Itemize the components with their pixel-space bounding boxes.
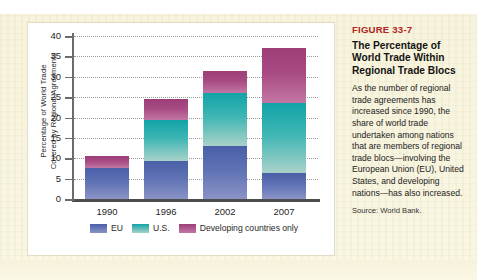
legend-swatch-dev	[179, 224, 196, 233]
y-axis-tick-label: 15	[39, 132, 61, 143]
y-axis-tick-label: 30	[39, 71, 61, 82]
legend-label-dev: Developing countries only	[200, 223, 298, 233]
bar-segment-us-2002[interactable]	[203, 93, 247, 146]
y-axis-tick-label: 40	[39, 30, 61, 41]
plot-area: 0510152025303540 1990199620022007	[72, 36, 318, 199]
y-axis-tick-mark: 35	[65, 56, 74, 58]
legend-item-eu[interactable]: EU	[90, 223, 123, 233]
x-axis-label-2007: 2007	[254, 206, 314, 217]
bar-segment-eu-1996[interactable]	[144, 161, 188, 199]
figure-number: FIGURE 33-7	[352, 24, 464, 35]
x-axis-label-1996: 1996	[136, 206, 196, 217]
chart-legend: EUU.S.Developing countries only	[90, 223, 298, 233]
bar-1996[interactable]	[144, 99, 188, 199]
y-axis-tick-mark: 5	[65, 179, 74, 181]
legend-swatch-us	[132, 224, 149, 233]
y-axis-tick-label: 35	[39, 50, 61, 61]
bar-2002[interactable]	[203, 71, 247, 199]
x-axis-label-2002: 2002	[195, 206, 255, 217]
y-axis-tick-mark: 20	[65, 118, 74, 120]
page-bottom-band	[0, 260, 477, 280]
figure-title: The Percentage of World Trade Within Reg…	[352, 40, 464, 77]
bar-segment-dev-1990[interactable]	[85, 156, 129, 168]
y-axis-tick-mark: 15	[65, 138, 74, 140]
gridline	[74, 36, 318, 37]
y-axis-tick-label: 10	[39, 152, 61, 163]
bar-segment-us-1996[interactable]	[144, 120, 188, 161]
y-axis-tick-mark: 0	[65, 199, 74, 201]
y-axis-tick-label: 20	[39, 112, 61, 123]
y-axis-tick-label: 0	[39, 193, 61, 204]
x-axis-label-1990: 1990	[77, 206, 137, 217]
bar-segment-us-2007[interactable]	[262, 103, 306, 172]
legend-item-dev[interactable]: Developing countries only	[179, 223, 298, 233]
legend-label-eu: EU	[111, 223, 123, 233]
figure-source: Source: World Bank.	[352, 206, 464, 215]
legend-label-us: U.S.	[153, 223, 170, 233]
x-axis-line	[72, 199, 320, 202]
y-axis-tick-mark: 30	[65, 77, 74, 79]
bar-segment-dev-2007[interactable]	[262, 48, 306, 103]
y-axis-tick-mark: 40	[65, 36, 74, 38]
bar-segment-dev-1996[interactable]	[144, 99, 188, 120]
figure-caption-panel: FIGURE 33-7 The Percentage of World Trad…	[352, 24, 464, 215]
bar-2007[interactable]	[262, 48, 306, 199]
legend-item-us[interactable]: U.S.	[132, 223, 170, 233]
chart-panel: Percentage of World Trade Covered by Reg…	[28, 23, 334, 255]
y-axis-tick-mark: 10	[65, 158, 74, 160]
legend-swatch-eu	[90, 224, 107, 233]
y-axis-tick-label: 5	[39, 173, 61, 184]
bar-1990[interactable]	[85, 156, 129, 199]
y-axis-tick-mark: 25	[65, 97, 74, 99]
bar-segment-eu-1990[interactable]	[85, 168, 129, 199]
y-axis-tick-label: 25	[39, 91, 61, 102]
bar-segment-eu-2002[interactable]	[203, 146, 247, 199]
figure-body-text: As the number of regional trade agreemen…	[352, 83, 464, 199]
plot-wrapper: Percentage of World Trade Covered by Reg…	[28, 23, 334, 255]
bar-segment-eu-2007[interactable]	[262, 173, 306, 199]
bar-segment-dev-2002[interactable]	[203, 71, 247, 93]
